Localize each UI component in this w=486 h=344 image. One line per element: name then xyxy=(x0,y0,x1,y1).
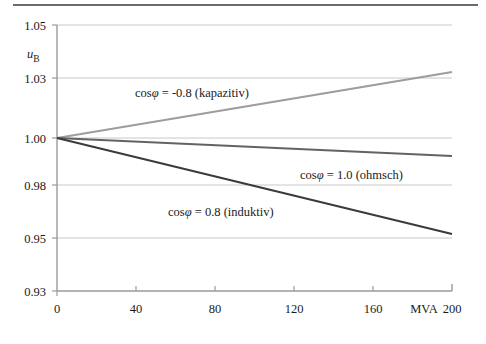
y-tick-label-0.93: 0.93 xyxy=(24,285,46,299)
figure-container: 1.05 1.03 1.00 0.98 0.95 0.93 0 40 80 12… xyxy=(0,0,486,344)
x-tick-label-0: 0 xyxy=(54,302,60,316)
annotation-text-kapazitiv-prefix: cos xyxy=(135,86,152,100)
y-axis-title-subscript: B xyxy=(33,54,39,64)
annotation-text-induktiv-suffix: = 0.8 (induktiv) xyxy=(192,205,274,219)
x-tick-label-120: 120 xyxy=(285,302,304,316)
chart-canvas: 1.05 1.03 1.00 0.98 0.95 0.93 0 40 80 12… xyxy=(0,0,486,344)
series-annotation-kapazitiv: cosφ = -0.8 (kapazitiv) xyxy=(135,86,249,100)
y-tick-marks xyxy=(52,25,57,291)
y-tick-label-1.05: 1.05 xyxy=(24,19,46,33)
annotation-text-induktiv-prefix: cos xyxy=(168,205,185,219)
y-tick-label-1.03: 1.03 xyxy=(24,72,46,86)
x-tick-label-160: 160 xyxy=(364,302,383,316)
x-tick-label-200: 200 xyxy=(443,302,462,316)
y-tick-label-0.95: 0.95 xyxy=(24,232,46,246)
y-tick-label-0.98: 0.98 xyxy=(24,179,46,193)
x-tick-label-40: 40 xyxy=(130,302,143,316)
series-line-kapazitiv xyxy=(57,72,452,138)
x-axis-unit-label: MVA xyxy=(410,302,438,316)
series-annotation-induktiv: cosφ = 0.8 (induktiv) xyxy=(168,205,274,219)
series-annotation-ohmsch: cosφ = 1.0 (ohmsch) xyxy=(300,168,403,182)
annotation-text-ohmsch-suffix: = 1.0 (ohmsch) xyxy=(324,168,403,182)
y-axis-title: uB xyxy=(27,47,40,64)
x-tick-label-80: 80 xyxy=(209,302,222,316)
annotation-text-ohmsch-prefix: cos xyxy=(300,168,317,182)
annotation-text-kapazitiv-suffix: = -0.8 (kapazitiv) xyxy=(159,86,249,100)
y-tick-label-1.00: 1.00 xyxy=(24,132,46,146)
line-chart: 1.05 1.03 1.00 0.98 0.95 0.93 0 40 80 12… xyxy=(0,0,486,344)
